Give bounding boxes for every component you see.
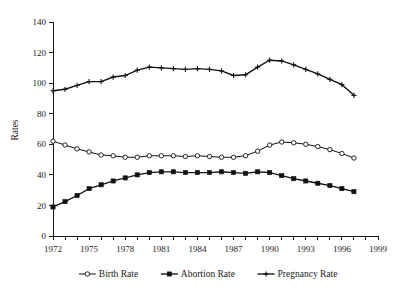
y-tick-label: 120 [33,48,47,58]
data-point-marker [207,170,211,174]
data-point-marker [219,155,223,159]
data-point-marker [63,143,67,147]
y-tick-label: 20 [37,201,47,211]
data-point-marker [340,151,344,155]
data-point-marker [304,179,308,183]
data-point-marker [280,174,284,178]
data-point-marker [243,171,247,175]
data-point-marker [123,176,127,180]
data-point-marker [292,141,296,145]
data-point-marker [171,154,175,158]
data-point-marker [87,187,91,191]
data-point-marker [63,200,67,204]
y-tick-label: 100 [33,78,47,88]
chart-legend: Birth RateAbortion RatePregnancy Rate [79,269,338,279]
data-point-marker [256,170,260,174]
data-point-marker [207,154,211,158]
data-point-marker [195,170,199,174]
legend-marker [167,272,171,276]
data-point-marker [111,154,115,158]
data-point-marker [183,170,187,174]
data-point-marker [99,183,103,187]
data-point-marker [147,170,151,174]
data-point-marker [352,190,356,194]
y-tick-label: 60 [37,139,47,149]
x-tick-label: 1984 [188,244,207,254]
data-point-marker [231,170,235,174]
chart-container: 020406080100120140 197219751978198119841… [0,0,408,296]
data-point-marker [280,140,284,144]
data-point-marker [135,155,139,159]
x-tick-label: 1987 [225,244,244,254]
data-point-marker [328,183,332,187]
data-point-marker [352,156,356,160]
x-tick-label: 1981 [152,244,170,254]
x-tick-label: 1993 [297,244,316,254]
data-point-marker [231,155,235,159]
y-tick-label: 140 [33,17,47,27]
x-tick-label: 1978 [116,244,135,254]
data-point-marker [328,147,332,151]
data-point-marker [292,177,296,181]
line-chart: 020406080100120140 197219751978198119841… [0,0,408,296]
y-tick-label: 0 [42,231,47,241]
data-point-marker [304,142,308,146]
data-point-marker [340,187,344,191]
data-point-marker [135,173,139,177]
y-tick-label: 40 [37,170,47,180]
data-point-marker [171,170,175,174]
x-tick-label: 1999 [369,244,388,254]
data-point-marker [159,170,163,174]
data-point-marker [255,149,259,153]
y-axis-title: Rates [10,119,20,140]
data-point-marker [111,179,115,183]
legend-label: Birth Rate [99,269,138,279]
data-point-marker [267,143,271,147]
data-point-marker [243,154,247,158]
data-point-marker [75,147,79,151]
data-point-marker [51,139,55,143]
data-point-marker [99,153,103,157]
x-tick-label: 1996 [333,244,352,254]
data-point-marker [268,170,272,174]
data-point-marker [147,154,151,158]
data-point-marker [159,154,163,158]
data-point-marker [219,170,223,174]
x-tick-label: 1972 [44,244,62,254]
data-point-marker [195,154,199,158]
legend-label: Abortion Rate [181,269,235,279]
data-point-marker [75,193,79,197]
data-point-marker [316,181,320,185]
x-tick-label: 1990 [261,244,280,254]
legend-marker [85,272,89,276]
data-point-marker [51,205,55,209]
data-point-marker [316,144,320,148]
data-point-marker [87,150,91,154]
x-tick-label: 1975 [80,244,99,254]
legend-label: Pregnancy Rate [278,269,338,279]
data-point-marker [183,154,187,158]
data-point-marker [123,155,127,159]
y-tick-label: 80 [37,109,47,119]
